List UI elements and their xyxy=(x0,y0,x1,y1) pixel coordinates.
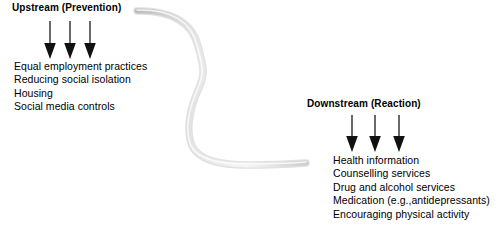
upstream-arrow-2 xyxy=(64,21,76,59)
list-item: Medication (e.g.,antidepressants) xyxy=(333,194,490,207)
stream-curve-shadow xyxy=(137,11,306,165)
list-item: Social media controls xyxy=(14,100,147,113)
list-item: Counselling services xyxy=(333,167,490,180)
stream-curve-path xyxy=(137,11,306,165)
downstream-heading: Downstream (Reaction) xyxy=(307,98,421,110)
downstream-arrow-2 xyxy=(369,115,381,152)
list-item: Housing xyxy=(14,87,147,100)
upstream-arrow-3 xyxy=(84,21,96,59)
list-item: Drug and alcohol services xyxy=(333,181,490,194)
list-item: Health information xyxy=(333,154,490,167)
upstream-item-list: Equal employment practices Reducing soci… xyxy=(14,60,147,114)
upstream-arrow-1 xyxy=(44,21,56,59)
downstream-arrow-1 xyxy=(346,115,358,152)
upstream-arrow-row xyxy=(38,20,108,60)
upstream-heading: Upstream (Prevention) xyxy=(12,2,121,14)
diagram-canvas: Upstream (Prevention) Equal employment p… xyxy=(0,0,502,232)
stream-curve-highlight xyxy=(137,10,306,164)
list-item: Reducing social isolation xyxy=(14,73,147,86)
downstream-arrow-3 xyxy=(393,115,405,152)
list-item: Equal employment practices xyxy=(14,60,147,73)
downstream-arrow-row xyxy=(341,114,411,154)
list-item: Encouraging physical activity xyxy=(333,208,490,221)
downstream-item-list: Health information Counselling services … xyxy=(333,154,490,221)
